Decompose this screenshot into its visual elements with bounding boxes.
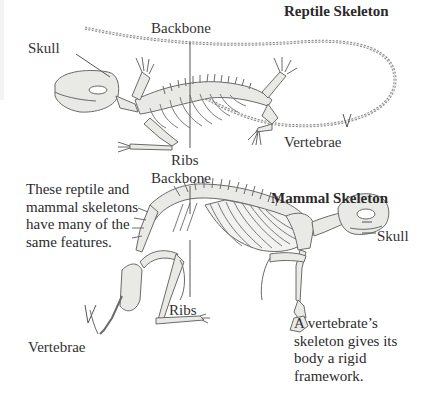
reptile-backbone-label: Backbone <box>151 20 211 37</box>
comparison-caption-line: have many of the <box>26 216 138 234</box>
framework-caption-line: A vertebrate’s <box>294 315 397 333</box>
reptile-ribs-label: Ribs <box>171 152 199 169</box>
reptile-vertebrae-label: Vertebrae <box>284 134 341 151</box>
framework-caption-line: body a rigid <box>294 350 397 368</box>
mammal-skull-label: Skull <box>377 228 409 245</box>
comparison-caption-line: same features. <box>26 234 138 252</box>
reptile-skeleton-drawing <box>55 28 395 152</box>
framework-caption-line: framework. <box>294 368 397 386</box>
mammal-ribs-label: Ribs <box>169 302 197 319</box>
reptile-skull-label: Skull <box>28 40 60 57</box>
mammal-vertebrae-label: Vertebrae <box>28 339 85 356</box>
reptile-title: Reptile Skeleton <box>284 3 389 20</box>
comparison-caption: These reptile and mammal skeletons have … <box>26 181 138 251</box>
mammal-title: Mammal Skeleton <box>271 190 388 207</box>
framework-caption: A vertebrate’s skeleton gives its body a… <box>294 315 397 385</box>
comparison-caption-line: mammal skeletons <box>26 199 138 217</box>
comparison-caption-line: These reptile and <box>26 181 138 199</box>
framework-caption-line: skeleton gives its <box>294 333 397 351</box>
mammal-backbone-label: Backbone <box>151 170 211 187</box>
